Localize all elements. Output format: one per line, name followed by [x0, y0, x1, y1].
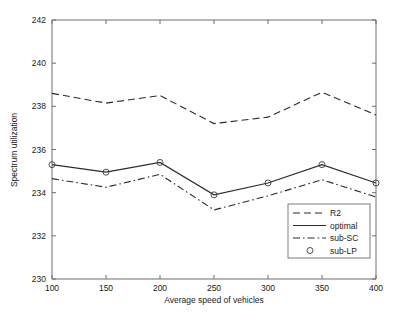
x-tick-label: 100	[45, 283, 59, 293]
chart-canvas: 230232234236238240242 100150200250300350…	[0, 0, 394, 320]
y-tick-label: 232	[32, 231, 46, 241]
x-tick-label: 150	[99, 283, 113, 293]
legend-label-optimal: optimal	[330, 221, 358, 231]
x-tick-label: 300	[261, 283, 275, 293]
y-tick-label: 234	[32, 188, 46, 198]
x-tick-label: 250	[207, 283, 221, 293]
x-tick-label: 350	[315, 283, 329, 293]
figure-background	[0, 0, 394, 320]
legend-label-r2: R2	[330, 208, 341, 218]
x-axis-title: Average speed of vehicles	[164, 295, 264, 305]
legend-background	[288, 204, 370, 258]
y-axis-title: Spectrum utilization	[9, 113, 19, 187]
chart-figure: 230232234236238240242 100150200250300350…	[0, 0, 394, 320]
y-tick-label: 238	[32, 101, 46, 111]
x-tick-label: 400	[369, 283, 383, 293]
y-tick-label: 236	[32, 145, 46, 155]
legend-label-sub-lp: sub-LP	[330, 246, 357, 256]
chart-legend: R2optimalsub-SCsub-LP	[288, 204, 370, 258]
x-tick-label: 200	[153, 283, 167, 293]
y-tick-label: 242	[32, 15, 46, 25]
legend-label-sub-sc: sub-SC	[330, 233, 358, 243]
y-tick-label: 240	[32, 58, 46, 68]
